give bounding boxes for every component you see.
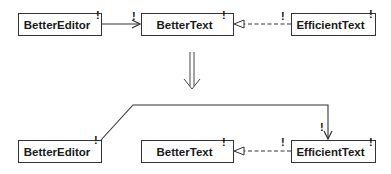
edge-end-marker: !	[281, 11, 285, 22]
double-down-arrow-icon	[184, 52, 200, 89]
node-label: BetterEditor	[24, 146, 90, 158]
warning-marker: !	[222, 10, 226, 21]
node-label: EfficientText	[296, 146, 364, 158]
node-better-text-before[interactable]: BetterText	[141, 13, 234, 36]
warning-marker: !	[369, 137, 373, 148]
edge-end-marker: !	[132, 11, 136, 22]
warning-marker: !	[222, 137, 226, 148]
refactoring-diagram: BetterEditor ! BetterText ! EfficientTex…	[0, 0, 391, 174]
edge-end-marker: !	[320, 122, 324, 133]
node-better-editor-after[interactable]: BetterEditor	[18, 140, 102, 163]
node-label: BetterText	[156, 146, 212, 158]
node-label: BetterEditor	[24, 19, 90, 31]
warning-marker: !	[94, 135, 98, 146]
warning-marker: !	[96, 10, 100, 21]
warning-marker: !	[369, 9, 373, 20]
association-arrow-after	[101, 105, 328, 140]
node-efficient-text-after[interactable]: EfficientText	[291, 140, 376, 163]
node-label: EfficientText	[296, 19, 364, 31]
node-better-text-after[interactable]: BetterText	[141, 140, 234, 163]
edge-end-marker: !	[281, 137, 285, 148]
node-better-editor-before[interactable]: BetterEditor	[18, 13, 102, 36]
node-efficient-text-before[interactable]: EfficientText	[291, 13, 376, 36]
node-label: BetterText	[156, 19, 212, 31]
